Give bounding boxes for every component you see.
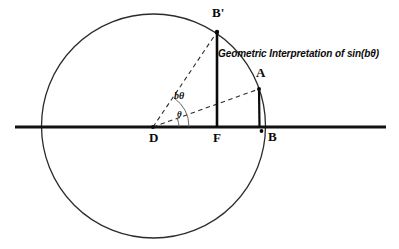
point-b-dot <box>260 129 264 133</box>
segment-d-to-a <box>153 89 259 127</box>
point-label-a: A <box>256 66 265 79</box>
segment-a-to-b <box>259 89 260 127</box>
point-label-f: F <box>213 131 221 144</box>
geometry-figure: Geometric Interpretation of sin(bθ) B' A… <box>0 0 399 249</box>
figure-canvas <box>0 0 399 249</box>
point-bprime-dot <box>215 30 219 34</box>
angle-label-btheta: bθ <box>174 91 184 101</box>
figure-title: Geometric Interpretation of sin(bθ) <box>218 49 379 59</box>
point-label-b: B <box>268 130 277 143</box>
angle-label-theta: θ <box>177 110 182 119</box>
segment-d-to-bprime <box>153 32 217 127</box>
point-d-dot <box>151 125 155 129</box>
point-label-bprime: B' <box>212 6 224 19</box>
point-label-d: D <box>149 131 158 144</box>
point-a-dot <box>257 87 261 91</box>
